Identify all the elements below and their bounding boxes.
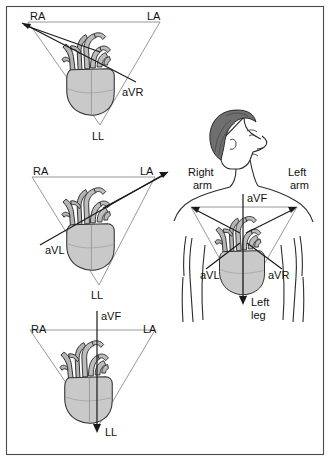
right-arm-outer	[294, 238, 296, 277]
label-la: LA	[140, 165, 154, 177]
left-forearm-outer	[190, 277, 193, 322]
label-ra: RA	[33, 165, 49, 177]
panel-avf: RA LA LL aVF	[30, 310, 157, 438]
left-arm-inner	[184, 236, 186, 276]
label-left-leg-line2: leg	[251, 309, 266, 321]
label-avf: aVF	[101, 310, 121, 322]
heart-illustration	[60, 341, 112, 424]
label-left-leg-line1: Left	[251, 296, 269, 308]
figure-frame	[7, 7, 324, 455]
label-left-arm-line1: Left	[288, 166, 306, 178]
label-la: LA	[143, 323, 157, 335]
neck-left-line	[230, 169, 236, 187]
torso-right	[281, 245, 284, 320]
label-body-avr: aVR	[268, 269, 289, 281]
label-ra: RA	[30, 10, 46, 22]
label-right-arm-line1: Right	[188, 166, 214, 178]
panel-avl: RA LA LL aVL	[32, 165, 168, 301]
label-right-arm-line2: arm	[193, 179, 212, 191]
torso-left	[202, 245, 205, 320]
label-ll: LL	[91, 289, 103, 301]
label-ll: LL	[92, 130, 104, 142]
left-forearm	[182, 277, 183, 322]
right-forearm	[303, 277, 304, 322]
right-forearm-outer	[293, 277, 296, 322]
heart-illustration	[62, 33, 114, 116]
label-ra: RA	[31, 323, 47, 335]
avf-arrowhead	[93, 424, 101, 433]
heart-illustration	[215, 217, 265, 295]
label-la: LA	[147, 10, 161, 22]
body-avf-arrowhead	[239, 296, 247, 305]
heart-illustration	[62, 188, 114, 271]
left-arm-outer	[190, 238, 192, 277]
label-body-avl: aVL	[200, 269, 220, 281]
left-shoulder-line	[174, 187, 230, 221]
label-avl: aVL	[45, 244, 65, 256]
head-profile	[210, 110, 267, 169]
label-avr: aVR	[122, 86, 143, 98]
panel-body: Right arm Left arm aVF aVL aVR Left leg	[174, 110, 313, 322]
avl-guide-line	[103, 174, 166, 208]
right-arm-inner	[300, 236, 302, 276]
neck-right-line	[250, 160, 258, 186]
label-left-arm-line2: arm	[290, 179, 309, 191]
mouth	[252, 154, 258, 156]
label-ll: LL	[105, 426, 117, 438]
panel-avr: RA LA LL aVR	[22, 10, 161, 142]
label-body-avf: aVF	[247, 192, 267, 204]
ecg-lead-vector-figure: RA LA LL aVR RA LA LL aVL RA LA LL aVF	[0, 0, 330, 461]
